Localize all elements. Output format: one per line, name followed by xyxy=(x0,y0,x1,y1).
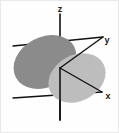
y-axis-label: y xyxy=(104,35,109,45)
x-axis-label: x xyxy=(105,91,110,101)
z-axis-label: z xyxy=(58,4,63,14)
orbital-axes-figure: z y x xyxy=(0,0,119,133)
figure-canvas: z y x xyxy=(0,0,119,133)
